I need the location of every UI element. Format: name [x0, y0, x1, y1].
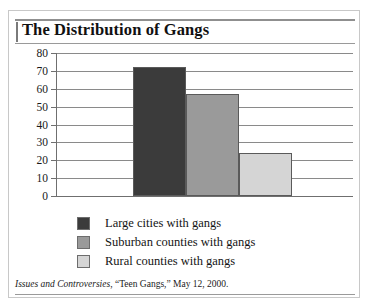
page-title: The Distribution of Gangs [22, 20, 209, 40]
chart-legend: Large cities with gangsSuburban counties… [77, 215, 307, 272]
y-axis-tick-label: 0 [26, 190, 48, 202]
legend-item: Rural counties with gangs [77, 253, 307, 271]
y-axis-line [56, 53, 57, 196]
legend-swatch-icon [77, 236, 90, 249]
gridline [56, 53, 353, 54]
title-bottom-rule [15, 43, 355, 44]
y-axis-tick-label: 40 [26, 119, 48, 131]
y-axis-tick-label: 20 [26, 154, 48, 166]
chart-bar [186, 94, 239, 196]
y-axis-tick-label: 30 [26, 136, 48, 148]
source-rule [15, 294, 355, 295]
source-publication: Issues and Controversies [15, 279, 110, 289]
source-details: , “Teen Gangs,” May 12, 2000. [110, 279, 228, 289]
y-axis-tick-label: 60 [26, 83, 48, 95]
chart-bar [133, 67, 186, 196]
gridline [56, 89, 353, 90]
y-axis-tick-label: 10 [26, 172, 48, 184]
legend-item-label: Rural counties with gangs [105, 253, 235, 270]
y-axis-tick-label: 70 [26, 65, 48, 77]
x-axis-baseline [56, 196, 353, 197]
title-left-rule [16, 22, 18, 42]
legend-item-label: Suburban counties with gangs [105, 234, 255, 251]
legend-item: Suburban counties with gangs [77, 234, 307, 252]
y-axis-tick-label: 80 [26, 47, 48, 59]
figure-panel: The Distribution of Gangs 80706050403020… [8, 10, 360, 298]
chart-plot-area: 80706050403020100 [21, 47, 353, 207]
y-axis-tick-label: 50 [26, 101, 48, 113]
gridline [56, 71, 353, 72]
source-citation: Issues and Controversies, “Teen Gangs,” … [15, 279, 229, 289]
chart-bar [239, 153, 292, 196]
legend-item-label: Large cities with gangs [105, 215, 221, 232]
legend-swatch-icon [77, 217, 90, 230]
legend-item: Large cities with gangs [77, 215, 307, 233]
legend-swatch-icon [77, 255, 90, 268]
chart-canvas: 80706050403020100 [21, 47, 353, 207]
